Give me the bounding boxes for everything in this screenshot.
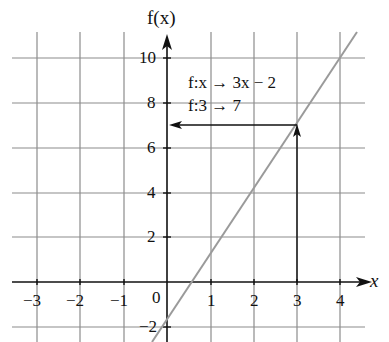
chart-canvas — [0, 0, 389, 342]
x-tick-3: 3 — [293, 292, 302, 309]
y-tick-10: 10 — [139, 49, 156, 66]
x-tick-2: 2 — [250, 292, 259, 309]
x-tick-4: 4 — [336, 292, 345, 309]
y-tick-6: 6 — [147, 139, 156, 156]
x-axis-label: x — [370, 271, 378, 290]
y-axis-label: f(x) — [147, 8, 175, 27]
y-tick-2: 2 — [147, 228, 156, 245]
point-label: f:3 → 7 — [188, 97, 241, 114]
x-tick-1: 1 — [207, 292, 216, 309]
y-tick-8: 8 — [147, 94, 156, 111]
x-tick-neg3: −3 — [23, 292, 41, 309]
x-tick-neg2: −2 — [66, 292, 84, 309]
origin-label: 0 — [152, 289, 161, 306]
y-tick-neg2: −2 — [139, 318, 157, 335]
mapping-label: f:x → 3x − 2 — [188, 74, 276, 91]
x-tick-neg1: −1 — [110, 292, 128, 309]
y-tick-4: 4 — [147, 184, 156, 201]
